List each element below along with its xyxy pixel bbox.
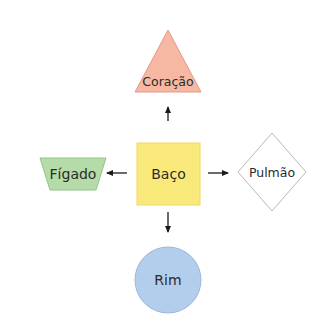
node-label-baco: Baço — [151, 166, 185, 182]
diagram-canvas: Coração Baço Fígado Pulmão Rim — [0, 0, 327, 328]
node-label-rim: Rim — [154, 272, 181, 288]
node-label-coracao: Coração — [142, 74, 193, 89]
node-label-pulmao: Pulmão — [249, 165, 295, 180]
node-pulmao: Pulmão — [238, 133, 306, 211]
node-baco: Baço — [137, 143, 200, 205]
node-coracao: Coração — [135, 30, 201, 92]
node-rim: Rim — [135, 247, 201, 313]
node-label-figado: Fígado — [50, 166, 97, 182]
node-figado: Fígado — [40, 158, 106, 190]
